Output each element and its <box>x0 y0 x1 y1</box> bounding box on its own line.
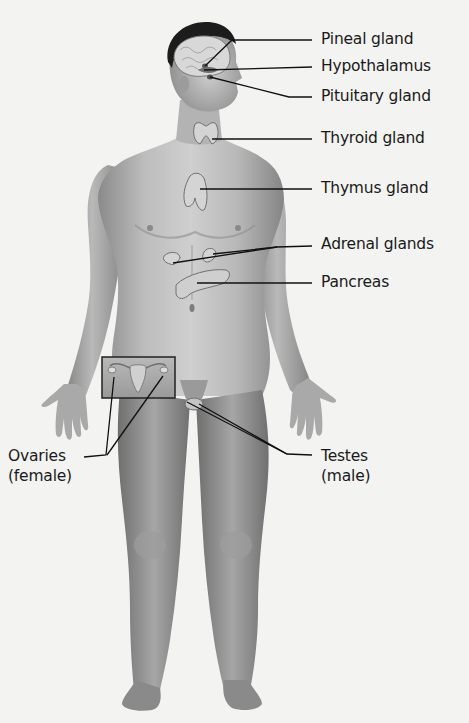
label-hypothalamus: Hypothalamus <box>321 57 431 76</box>
ovary-right <box>160 367 168 373</box>
right-hand <box>290 378 336 440</box>
endocrine-diagram <box>0 0 469 723</box>
label-ovaries: Ovaries (female) <box>8 446 72 486</box>
label-testes: Testes (male) <box>321 446 370 486</box>
human-figure <box>41 22 336 711</box>
right-foot <box>223 680 262 710</box>
label-pineal-gland: Pineal gland <box>321 30 413 49</box>
label-ovaries-note: (female) <box>8 466 72 486</box>
navel <box>190 304 195 312</box>
label-thymus-gland: Thymus gland <box>321 179 428 198</box>
left-hand <box>41 384 88 440</box>
nipple-left <box>147 225 153 231</box>
label-pancreas: Pancreas <box>321 273 389 292</box>
nipple-right <box>235 225 241 231</box>
ovary-left <box>108 367 116 373</box>
left-knee <box>134 531 166 559</box>
label-adrenal-glands: Adrenal glands <box>321 235 434 254</box>
label-testes-note: (male) <box>321 466 370 486</box>
right-knee <box>220 531 252 559</box>
ear <box>179 76 189 92</box>
label-testes-name: Testes <box>321 446 370 466</box>
label-pituitary-gland: Pituitary gland <box>321 87 431 106</box>
label-thyroid-gland: Thyroid gland <box>321 129 425 148</box>
label-ovaries-name: Ovaries <box>8 446 72 466</box>
